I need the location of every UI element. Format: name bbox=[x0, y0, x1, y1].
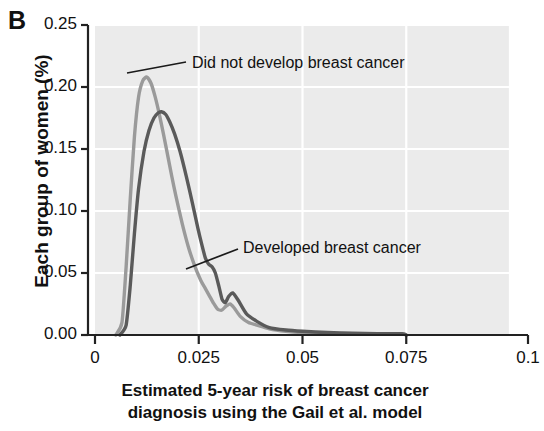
y-tick-label-1: 0.05 bbox=[18, 262, 77, 282]
annotation-label-1: Did not develop breast cancer bbox=[192, 54, 405, 72]
x-tick-label-3: 0.075 bbox=[376, 348, 436, 368]
x-tick-label-1: 0.025 bbox=[169, 348, 229, 368]
y-tick-label-3: 0.15 bbox=[18, 138, 77, 158]
y-tick-label-4: 0.20 bbox=[18, 76, 77, 96]
annotation-label-2: Developed breast cancer bbox=[243, 239, 421, 257]
y-tick-label-0: 0.00 bbox=[18, 324, 77, 344]
y-tick-label-5: 0.25 bbox=[18, 14, 77, 34]
x-tick-label-4: 0.1 bbox=[498, 348, 544, 368]
x-tick-label-0: 0 bbox=[65, 348, 125, 368]
x-tick-label-2: 0.05 bbox=[273, 348, 333, 368]
y-tick-label-2: 0.10 bbox=[18, 200, 77, 220]
